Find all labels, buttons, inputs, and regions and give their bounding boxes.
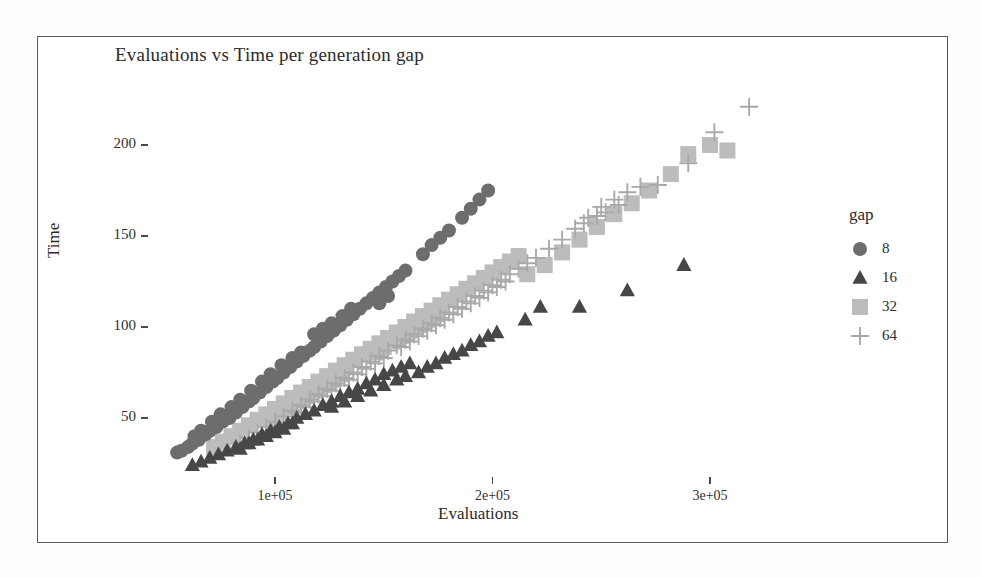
legend-entry-16[interactable]: 16 — [845, 263, 940, 292]
y-axis-tick-mark — [141, 235, 148, 237]
legend-entry-label: 32 — [882, 298, 897, 315]
legend-title: gap — [849, 205, 940, 225]
y-axis-tick-label: 50 — [92, 408, 136, 425]
legend-entry-label: 16 — [882, 269, 897, 286]
x-axis-tick-label: 3e+05 — [675, 488, 745, 504]
circle-icon — [845, 237, 875, 261]
figure-frame-border — [37, 36, 948, 543]
triangle-icon — [845, 266, 875, 290]
legend-entry-list: 8163264 — [845, 234, 940, 350]
legend-entry-8[interactable]: 8 — [845, 234, 940, 263]
y-axis-tick-label: 150 — [92, 226, 136, 243]
legend-entry-32[interactable]: 32 — [845, 292, 940, 321]
x-axis-label: Evaluations — [438, 504, 518, 524]
y-axis-tick-mark — [141, 326, 148, 328]
legend-entry-label: 8 — [882, 240, 890, 257]
scanned-page: Evaluations vs Time per generation gap T… — [0, 0, 981, 577]
plus-icon — [845, 324, 875, 348]
legend: gap 8163264 — [845, 205, 940, 350]
x-axis-tick-label: 2e+05 — [458, 488, 528, 504]
y-axis-tick-mark — [141, 417, 148, 419]
y-axis-tick-label: 100 — [92, 317, 136, 334]
y-axis-tick-label: 200 — [92, 135, 136, 152]
x-axis-tick-label: 1e+05 — [240, 488, 310, 504]
x-axis-tick-mark — [274, 477, 276, 484]
y-axis-tick-mark — [141, 144, 148, 146]
page-title: Evaluations vs Time per generation gap — [115, 44, 424, 66]
legend-entry-64[interactable]: 64 — [845, 321, 940, 350]
y-axis-label: Time — [44, 223, 64, 258]
legend-entry-label: 64 — [882, 327, 897, 344]
x-axis-tick-mark — [709, 477, 711, 484]
x-axis-tick-mark — [492, 477, 494, 484]
square-icon — [845, 295, 875, 319]
